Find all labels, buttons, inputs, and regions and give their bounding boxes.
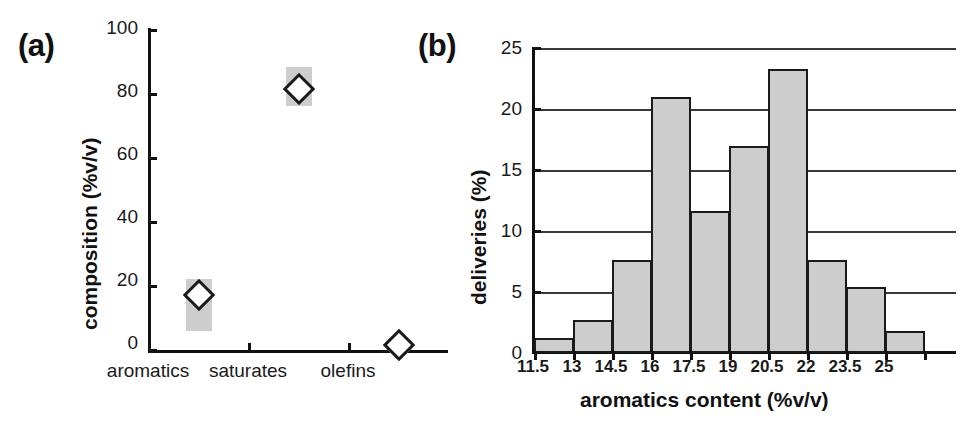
panel-b-ytick-10: 10 bbox=[470, 220, 522, 242]
panel-a-xtick-mark-0 bbox=[148, 343, 151, 352]
histogram-bar-4 bbox=[651, 97, 691, 353]
panel-a-marker-olefins bbox=[383, 329, 416, 362]
histogram-bar-9 bbox=[846, 287, 886, 353]
panel-b-xtick-label-7: 20.5 bbox=[746, 357, 788, 377]
panel-b-xtick-label-5: 17.5 bbox=[668, 357, 710, 377]
panel-a-ytick-mark-100 bbox=[148, 29, 157, 32]
panel-b-xtick-mark-10 bbox=[924, 351, 927, 360]
panel-b-ytick-15: 15 bbox=[470, 159, 522, 181]
panel-a-ytick-60: 60 bbox=[86, 143, 138, 165]
panel-b-ytick-mark-25 bbox=[532, 47, 541, 50]
panel-b-ytick-mark-5 bbox=[532, 291, 541, 294]
panel-b-xtick-label-4: 16 bbox=[629, 357, 671, 377]
histogram-bar-7 bbox=[768, 69, 808, 353]
histogram-bar-3 bbox=[612, 260, 652, 353]
panel-a-plot-area bbox=[148, 38, 448, 353]
histogram-bar-8 bbox=[807, 260, 847, 353]
panel-a-category-label-olefins: olefins bbox=[298, 360, 398, 382]
panel-b-xtick-label-1: 11.5 bbox=[512, 357, 554, 377]
panel-a-ytick-mark-80 bbox=[148, 93, 157, 96]
panel-a-xtick-mark-2 bbox=[348, 343, 351, 352]
panel-a-category-label-saturates: saturates bbox=[198, 360, 298, 382]
histogram-bar-1 bbox=[534, 338, 574, 353]
panel-b-ytick-5: 5 bbox=[470, 281, 522, 303]
histogram-bar-5 bbox=[690, 211, 730, 353]
panel-a-ytick-100: 100 bbox=[86, 17, 138, 39]
panel-a-ytick-mark-60 bbox=[148, 157, 157, 160]
panel-a-xtick-mark-1 bbox=[248, 343, 251, 352]
panel-a-y-axis-line bbox=[148, 28, 151, 353]
panel-b-label: (b) bbox=[418, 28, 456, 64]
panel-b-plot-area bbox=[532, 48, 956, 353]
panel-a-ytick-40: 40 bbox=[86, 206, 138, 228]
panel-b-x-axis-title: aromatics content (%v/v) bbox=[580, 388, 829, 412]
panel-b-xtick-label-9: 23.5 bbox=[824, 357, 866, 377]
panel-a-ytick-0: 0 bbox=[86, 332, 138, 354]
histogram-bar-6 bbox=[729, 146, 769, 353]
panel-b-y-axis-line bbox=[532, 48, 535, 353]
panel-a-ytick-mark-20 bbox=[148, 285, 157, 288]
panel-b-ytick-25: 25 bbox=[470, 37, 522, 59]
histogram-bar-2 bbox=[573, 320, 613, 353]
panel-b-xtick-label-2: 13 bbox=[551, 357, 593, 377]
panel-a-composition-chart: (a) composition (%v/v) 0 20 40 60 80 100 bbox=[0, 0, 470, 430]
panel-a-ytick-20: 20 bbox=[86, 269, 138, 291]
panel-a-ytick-80: 80 bbox=[86, 80, 138, 102]
panel-b-xtick-label-8: 22 bbox=[785, 357, 827, 377]
panel-b-gridline-20 bbox=[532, 109, 956, 111]
panel-b-gridline-25 bbox=[532, 48, 956, 50]
panel-b-ytick-mark-20 bbox=[532, 108, 541, 111]
panel-b-xtick-label-6: 19 bbox=[707, 357, 749, 377]
panel-b-ytick-mark-10 bbox=[532, 230, 541, 233]
panel-b-ytick-mark-15 bbox=[532, 169, 541, 172]
panel-b-xtick-label-10: 25 bbox=[863, 357, 905, 377]
panel-b-xtick-label-3: 14.5 bbox=[590, 357, 632, 377]
panel-b-histogram-chart: (b) deliveries (%) 0 5 10 15 20 25 bbox=[470, 0, 969, 430]
panel-a-y-axis-title: composition (%v/v) bbox=[78, 137, 102, 330]
panel-a-label: (a) bbox=[18, 28, 54, 64]
panel-a-ytick-mark-40 bbox=[148, 221, 157, 224]
figure-two-panel-chart: (a) composition (%v/v) 0 20 40 60 80 100 bbox=[0, 0, 969, 430]
panel-b-ytick-20: 20 bbox=[470, 98, 522, 120]
histogram-bar-10 bbox=[885, 331, 925, 353]
panel-a-category-label-aromatics: aromatics bbox=[98, 360, 198, 382]
